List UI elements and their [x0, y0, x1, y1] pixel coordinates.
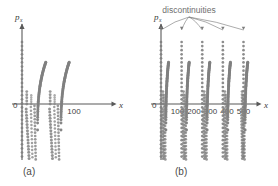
panel-a: pxx0100 (a) — [0, 0, 139, 186]
svg-text:0: 0 — [152, 101, 157, 110]
svg-text:100: 100 — [67, 107, 81, 116]
svg-text:x: x — [19, 17, 23, 23]
discontinuity-arrow — [189, 17, 223, 30]
svg-text:x: x — [118, 100, 123, 110]
figure-root: pxx0100 (a) pxx0100200300400500discontin… — [0, 0, 278, 186]
panel-b-caption: (b) — [175, 166, 187, 177]
svg-text:x: x — [158, 17, 162, 23]
panel-a-plot: pxx0100 — [0, 0, 139, 186]
svg-text:200: 200 — [187, 107, 201, 116]
discontinuity-arrow — [161, 17, 189, 30]
panel-a-caption: (a) — [23, 166, 35, 177]
svg-text:x: x — [263, 100, 268, 110]
panel-b-plot: pxx0100200300400500discontinuities — [139, 0, 278, 186]
panel-b: pxx0100200300400500discontinuities (b) — [139, 0, 278, 186]
svg-text:0: 0 — [13, 101, 18, 110]
discontinuities-label: discontinuities — [162, 5, 215, 15]
